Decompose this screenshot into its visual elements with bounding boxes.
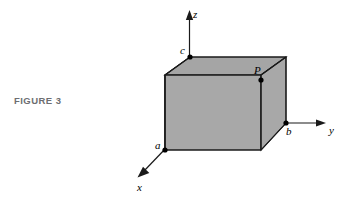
box-face-front [165, 75, 261, 150]
z-axis-label: z [192, 8, 198, 20]
point-a-dot [162, 147, 167, 152]
point-P-dot [258, 77, 263, 82]
point-b-label: b [286, 125, 292, 137]
x-axis-arrowhead [138, 167, 150, 178]
point-c-label: c [180, 44, 185, 56]
y-axis-label: y [328, 124, 334, 136]
point-P-label: P [253, 64, 261, 76]
x-axis-label: x [136, 181, 142, 193]
point-a-label: a [155, 139, 161, 151]
point-c-dot [187, 54, 192, 59]
figure-page: FIGURE 3 [0, 0, 345, 197]
y-axis-arrowhead [316, 119, 326, 126]
rectangular-box-diagram: z y x c b a P [0, 0, 345, 197]
